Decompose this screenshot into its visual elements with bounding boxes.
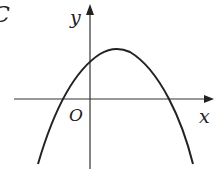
y-axis-label: y xyxy=(69,6,81,28)
y-axis-arrow-icon xyxy=(86,4,94,15)
parabola-curve xyxy=(38,49,193,164)
panel-label: C xyxy=(0,2,10,27)
parabola-graph: C y x O xyxy=(0,0,214,169)
origin-label: O xyxy=(69,105,83,125)
x-axis-arrow-icon xyxy=(204,95,214,103)
x-axis-label: x xyxy=(199,105,210,127)
